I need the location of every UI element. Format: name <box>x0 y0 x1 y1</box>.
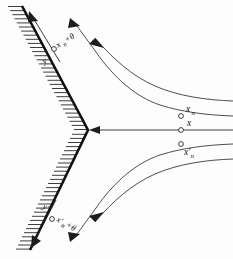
lower-inner-arrowhead <box>68 232 80 242</box>
marker-upper-outer <box>52 47 57 52</box>
upper-wall-flow-arrowhead <box>28 11 38 22</box>
marker-xnp <box>179 142 184 147</box>
marker-xn <box>179 114 184 119</box>
upper-inner-streamline <box>74 22 233 116</box>
label-lower-outer-suffix: +θ <box>64 219 78 233</box>
label-lower-outer-group: x′ n +θ <box>53 214 78 235</box>
figure-container: x n +θ y x n x x′ n y′ x′ n +θ <box>0 0 233 259</box>
label-xnp-sub: n <box>190 152 194 159</box>
lower-outer-streamline <box>95 159 233 222</box>
axis-streamline-arrowhead <box>89 126 100 134</box>
upper-inner-arrowhead <box>68 18 80 28</box>
label-xn-group: x n <box>185 104 196 116</box>
lower-inner-streamline <box>74 144 233 238</box>
label-x: x <box>186 118 192 128</box>
upper-outer-streamline <box>95 38 233 101</box>
marker-lower-outer <box>50 217 55 222</box>
label-upper-wall-y: y <box>39 55 48 66</box>
label-x-group: x <box>186 118 192 128</box>
label-xn-sub: n <box>192 109 196 116</box>
marker-x <box>179 128 184 133</box>
wedge-flow-diagram: x n +θ y x n x x′ n y′ x′ n +θ <box>0 0 233 259</box>
wall-hatching-lower <box>16 134 86 249</box>
label-xn-x: x <box>185 104 191 114</box>
label-xnp-group: x′ n <box>183 147 194 159</box>
label-upper-wall-group: y <box>39 55 48 66</box>
